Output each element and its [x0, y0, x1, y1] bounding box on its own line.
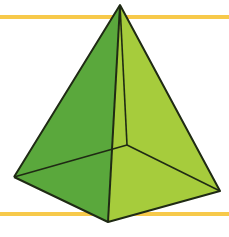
pyramid-diagram [0, 0, 229, 237]
left-face [14, 5, 120, 222]
pyramid-shape [0, 0, 229, 237]
